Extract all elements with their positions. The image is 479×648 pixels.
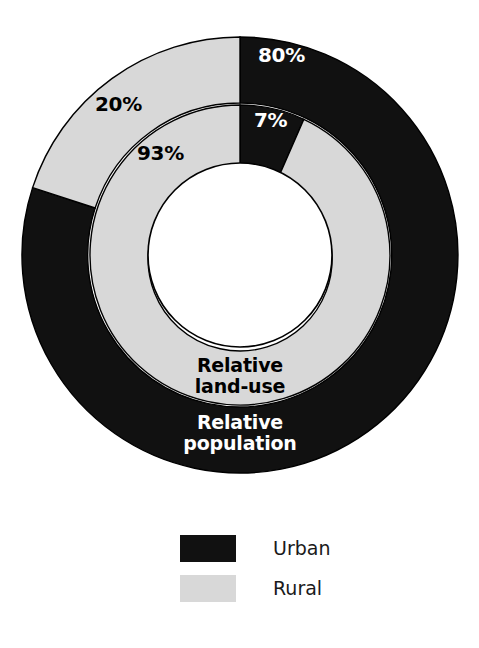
label-landuse-rural-pct: 93% <box>137 143 184 164</box>
label-landuse-urban-pct: 7% <box>254 110 287 131</box>
nested-donut-chart: 80% 7% 20% 93% Relative land-use Relativ… <box>0 0 479 648</box>
legend-item-rural: Rural <box>180 568 410 608</box>
legend-item-urban: Urban <box>180 528 410 568</box>
label-relative-population: Relative population <box>150 412 330 455</box>
label-population-urban-pct: 80% <box>258 45 305 66</box>
chart-legend: Urban Rural <box>180 528 410 608</box>
label-population-rural-pct: 20% <box>95 94 142 115</box>
legend-swatch-urban <box>180 535 236 562</box>
legend-swatch-rural <box>180 575 236 602</box>
legend-label-rural: Rural <box>273 577 322 599</box>
label-relative-land-use: Relative land-use <box>150 355 330 398</box>
legend-label-urban: Urban <box>273 537 330 559</box>
donut-center-hole <box>148 163 332 347</box>
